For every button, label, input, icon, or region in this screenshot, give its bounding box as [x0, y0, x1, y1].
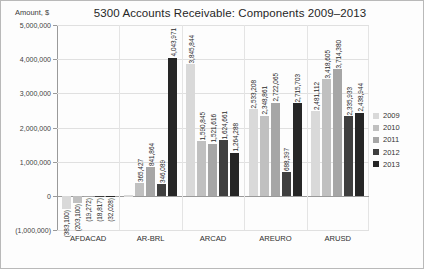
bar-slot — [124, 25, 133, 230]
bar-value-label: 841,864 — [146, 143, 155, 166]
bar-slot: (18,817) — [95, 25, 104, 230]
bar-slot: 1,590,845 — [197, 25, 206, 230]
y-axis-tick-label: 5,000,000 — [0, 22, 51, 29]
bar-value-label: 2,481,112 — [311, 82, 320, 110]
bar-value-label: 2,715,703 — [293, 74, 302, 102]
bar-group-arcad: 3,845,8441,590,8451,521,6161,624,6611,26… — [182, 25, 244, 230]
bar-afdacad-2010[interactable] — [73, 196, 82, 203]
bar-slot: 2,335,933 — [344, 25, 353, 230]
x-axis-label-ar-brl: AR-BRL — [119, 234, 181, 243]
bar-arcad-2011[interactable] — [208, 144, 217, 196]
bar-slot: 3,714,380 — [333, 25, 342, 230]
legend-item-2010[interactable]: 2010 — [373, 123, 400, 132]
bar-slot: 1,624,661 — [219, 25, 228, 230]
bar-value-label: 1,624,661 — [219, 111, 228, 139]
bar-arusd-2013[interactable] — [355, 113, 364, 196]
bar-value-label: (32,028) — [106, 198, 115, 222]
legend-label: 2009 — [383, 111, 400, 120]
bar-slot: (19,272) — [84, 25, 93, 230]
bar-slot: 2,533,208 — [249, 25, 258, 230]
x-axis-label-afdacad: AFDACAD — [57, 234, 119, 243]
y-axis-tick-label: 1,000,000 — [0, 158, 51, 165]
bar-arcad-2009[interactable] — [186, 64, 195, 195]
chart-container: Amount, $ 5300 Accounts Receivable: Comp… — [0, 0, 424, 269]
bar-areuro-2010[interactable] — [260, 116, 269, 196]
bar-afdacad-2009[interactable] — [62, 196, 71, 209]
legend-label: 2012 — [383, 148, 400, 157]
bar-areuro-2011[interactable] — [271, 103, 280, 196]
x-axis-label-arcad: ARCAD — [182, 234, 244, 243]
bar-slot: 3,845,844 — [186, 25, 195, 230]
legend-item-2011[interactable]: 2011 — [373, 135, 400, 144]
bar-value-label: 3,845,844 — [186, 35, 195, 63]
bar-value-label: (18,817) — [95, 198, 104, 222]
bar-slot: (203,100) — [73, 25, 82, 230]
bar-arcad-2013[interactable] — [230, 153, 239, 196]
y-axis-tick-label: 4,000,000 — [0, 56, 51, 63]
legend-swatch-icon — [373, 137, 379, 143]
bar-group-areuro: 2,533,2082,348,8612,722,065688,3972,715,… — [244, 25, 306, 230]
bar-value-label: 3,714,380 — [333, 40, 342, 68]
bar-slot: 841,864 — [146, 25, 155, 230]
legend-label: 2010 — [383, 123, 400, 132]
legend-label: 2013 — [383, 160, 400, 169]
bar-arusd-2011[interactable] — [333, 69, 342, 196]
bar-value-label: 346,089 — [157, 160, 166, 183]
bar-value-label: 2,348,861 — [260, 86, 269, 114]
bar-value-label: 688,397 — [282, 148, 291, 171]
bar-slot: (383,100) — [62, 25, 71, 230]
bar-areuro-2009[interactable] — [249, 109, 258, 196]
bar-ar-brl-2013[interactable] — [168, 58, 177, 196]
bar-value-label: 1,590,845 — [197, 112, 206, 140]
bar-ar-brl-2011[interactable] — [146, 167, 155, 196]
bar-ar-brl-2012[interactable] — [157, 184, 166, 196]
bar-value-label: 4,043,971 — [168, 28, 177, 56]
bar-value-label: 2,533,208 — [249, 80, 258, 108]
legend-swatch-icon — [373, 125, 379, 131]
bar-group-arusd: 2,481,1123,418,6053,714,3802,335,9332,43… — [307, 25, 369, 230]
bar-slot: 1,264,288 — [230, 25, 239, 230]
y-axis-tick-label: 3,000,000 — [0, 90, 51, 97]
bar-arcad-2010[interactable] — [197, 141, 206, 195]
bar-value-label: 2,722,065 — [271, 73, 280, 101]
bar-slot: 2,722,065 — [271, 25, 280, 230]
bar-slot: 2,715,703 — [293, 25, 302, 230]
chart-title: 5300 Accounts Receivable: Components 200… — [1, 7, 423, 19]
bar-slot: 3,418,605 — [322, 25, 331, 230]
bar-areuro-2012[interactable] — [282, 172, 291, 196]
bar-slot: 2,348,861 — [260, 25, 269, 230]
bar-ar-brl-2010[interactable] — [135, 183, 144, 195]
legend-item-2013[interactable]: 2013 — [373, 160, 400, 169]
bar-areuro-2013[interactable] — [293, 103, 302, 196]
bar-slot: (32,028) — [106, 25, 115, 230]
bar-value-label: (19,272) — [84, 198, 93, 222]
plot-area: (383,100)(203,100)(19,272)(18,817)(32,02… — [57, 25, 369, 230]
legend-item-2009[interactable]: 2009 — [373, 111, 400, 120]
gridline — [57, 230, 369, 231]
bar-group-afdacad: (383,100)(203,100)(19,272)(18,817)(32,02… — [57, 25, 119, 230]
bar-value-label: 2,335,933 — [344, 87, 353, 115]
bar-value-label: (203,100) — [73, 204, 82, 231]
bar-value-label: 3,418,605 — [322, 50, 331, 78]
bar-slot: 2,438,944 — [355, 25, 364, 230]
x-axis-label-arusd: ARUSD — [307, 234, 369, 243]
bar-arusd-2012[interactable] — [344, 116, 353, 196]
legend-swatch-icon — [373, 113, 379, 119]
bar-slot: 365,427 — [135, 25, 144, 230]
y-axis-tick-label: 2,000,000 — [0, 124, 51, 131]
bar-slot: 1,521,616 — [208, 25, 217, 230]
bar-value-label: 365,427 — [135, 159, 144, 182]
legend-label: 2011 — [383, 135, 399, 144]
legend-item-2012[interactable]: 2012 — [373, 148, 400, 157]
bar-slot: 688,397 — [282, 25, 291, 230]
y-axis-tick-label: 0 — [0, 192, 51, 199]
bar-slot: 4,043,971 — [168, 25, 177, 230]
bar-slot: 346,089 — [157, 25, 166, 230]
chart-legend: 20092010201120122013 — [373, 111, 400, 169]
bar-slot: 2,481,112 — [311, 25, 320, 230]
bar-arusd-2009[interactable] — [311, 111, 320, 196]
bar-ar-brl-2009[interactable] — [124, 195, 133, 196]
bar-arcad-2012[interactable] — [219, 140, 228, 196]
bar-arusd-2010[interactable] — [322, 79, 331, 196]
y-axis-tick-label: (1,000,000) — [0, 227, 51, 234]
